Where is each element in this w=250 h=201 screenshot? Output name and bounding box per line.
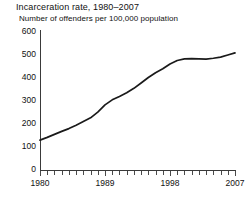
line-series-incarceration-rate bbox=[40, 53, 235, 140]
data-series-layer bbox=[0, 0, 250, 201]
chart-figure: Incarceration rate, 1980–2007 Number of … bbox=[0, 0, 250, 201]
plot-area: 6005004003002001000 1980198919982007 bbox=[0, 0, 250, 201]
line-series-svg bbox=[0, 0, 250, 201]
